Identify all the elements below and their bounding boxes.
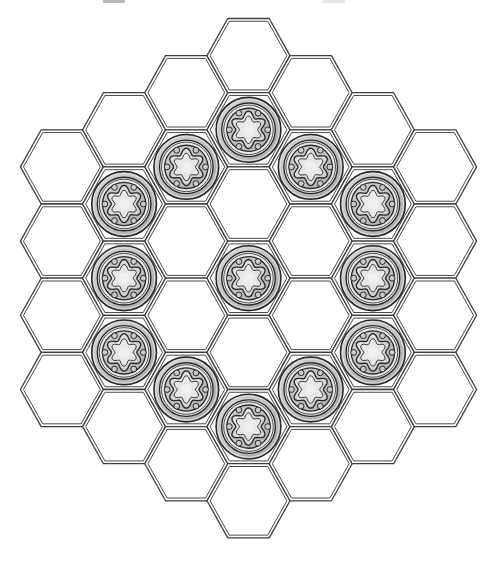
game-piece[interactable] — [92, 320, 157, 385]
game-piece[interactable] — [216, 394, 281, 459]
scanned-page — [0, 0, 496, 563]
hex-board — [0, 0, 496, 563]
game-piece[interactable] — [278, 135, 343, 200]
game-piece[interactable] — [154, 135, 219, 200]
game-piece[interactable] — [92, 172, 157, 237]
game-piece[interactable] — [341, 172, 406, 237]
scan-artifact — [323, 0, 345, 3]
game-piece[interactable] — [216, 246, 281, 311]
scan-artifact — [103, 0, 125, 3]
game-piece[interactable] — [154, 357, 219, 422]
game-piece[interactable] — [341, 320, 406, 385]
game-piece[interactable] — [278, 357, 343, 422]
game-piece[interactable] — [341, 246, 406, 311]
game-piece[interactable] — [216, 97, 281, 162]
game-piece[interactable] — [92, 246, 157, 311]
